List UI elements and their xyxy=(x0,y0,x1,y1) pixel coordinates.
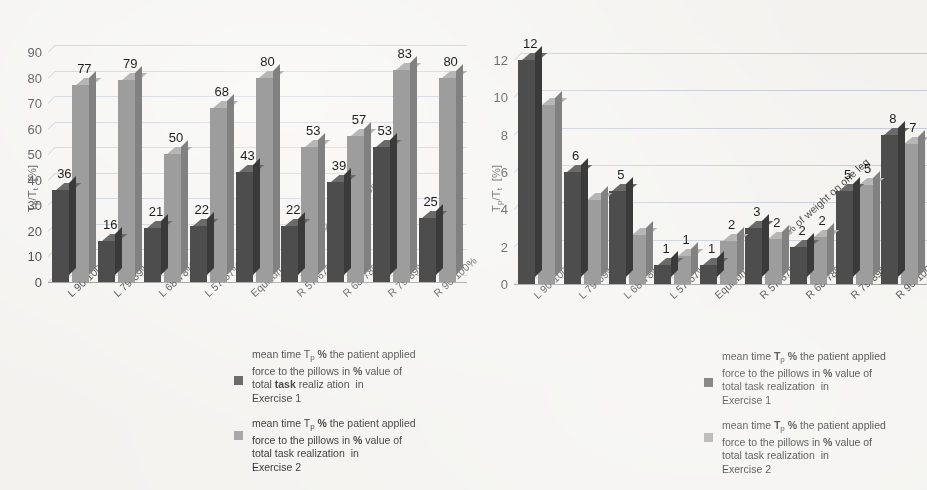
bar-value-label: 22 xyxy=(194,202,208,217)
y-tick-label: 6 xyxy=(478,165,508,180)
bar-value-label: 8 xyxy=(889,111,896,126)
chart-left-legend: mean time Tp % the patient applied force… xyxy=(232,348,452,486)
gridline xyxy=(521,90,927,91)
bar-side-face xyxy=(135,66,142,275)
legend-line: Exercise 1 xyxy=(252,392,452,406)
bar-value-label: 80 xyxy=(443,54,457,69)
y-tick-label: 10 xyxy=(478,90,508,105)
legend-line: mean time Tp % the patient applied xyxy=(252,417,452,434)
bar-value-label: 53 xyxy=(306,123,320,138)
bar-series-1 xyxy=(327,182,344,282)
legend-line: force to the pillows in % value of xyxy=(722,436,922,450)
legend-line: Exercise 2 xyxy=(722,463,922,477)
bar-top-face xyxy=(396,63,421,70)
legend-line: total task realization in xyxy=(722,380,922,394)
bar-side-face xyxy=(115,227,122,275)
bar-value-label: 36 xyxy=(57,166,71,181)
y-tick-label: 80 xyxy=(12,70,42,85)
bar-value-label: 16 xyxy=(103,217,117,232)
bar-side-face xyxy=(364,122,371,275)
scanned-figure-page: Tp/Tt [%] 0102030405060708090 3677167921… xyxy=(0,0,927,490)
chart-left-plot-area: Tp/Tt [%] 0102030405060708090 3677167921… xyxy=(0,0,462,300)
bar-front-face xyxy=(52,190,69,282)
legend-line: total task realization in xyxy=(252,447,452,461)
bar-side-face xyxy=(873,171,880,277)
bar-series-1 xyxy=(236,172,253,282)
bar-value-label: 2 xyxy=(799,223,806,238)
bar-front-face xyxy=(373,147,390,282)
y-tick-label: 90 xyxy=(12,45,42,60)
bar-side-face xyxy=(207,212,214,275)
bar-value-label: 68 xyxy=(214,84,228,99)
y-tick-label: 20 xyxy=(12,223,42,238)
chart-right: Tp/Tt [%] 024681012 1265111232225587 L 9… xyxy=(462,0,927,490)
bar-series-1 xyxy=(609,191,626,284)
bar-side-face xyxy=(807,233,814,277)
bar-side-face xyxy=(853,177,860,277)
bar-side-face xyxy=(298,212,305,275)
bar-top-face xyxy=(612,184,637,191)
bar-value-label: 22 xyxy=(286,202,300,217)
y-tick-label: 0 xyxy=(12,275,42,290)
bar-series-1 xyxy=(419,218,436,282)
bar-value-label: 57 xyxy=(352,112,366,127)
bar-side-face xyxy=(898,121,905,277)
depth-connector-line xyxy=(48,45,56,53)
bar-series-1 xyxy=(790,247,807,284)
bar-side-face xyxy=(601,186,608,277)
bar-front-face xyxy=(518,60,535,284)
bar-side-face xyxy=(181,140,188,275)
bar-side-face xyxy=(555,91,562,277)
bar-series-1 xyxy=(281,226,298,282)
y-tick-label: 70 xyxy=(12,96,42,111)
legend-swatch-series-1-icon xyxy=(234,376,243,385)
bar-side-face xyxy=(161,214,168,275)
bar-front-face xyxy=(564,172,581,284)
bar-side-face xyxy=(646,221,653,277)
chart-right-legend: mean time Tp % the patient applied force… xyxy=(702,350,922,488)
bar-front-face xyxy=(745,228,762,284)
bar-front-face xyxy=(654,265,671,284)
bar-side-face xyxy=(273,64,280,275)
bar-side-face xyxy=(318,133,325,275)
legend-swatch-series-2-icon xyxy=(704,433,713,442)
legend-line: mean time Tp % the patient applied xyxy=(722,419,922,436)
bar-top-face xyxy=(259,71,284,78)
bar-value-label: 3 xyxy=(753,204,760,219)
chart-right-plot-area: Tp/Tt [%] 024681012 1265111232225587 L 9… xyxy=(462,0,927,300)
bar-side-face xyxy=(253,158,260,275)
bar-front-face xyxy=(327,182,344,282)
depth-connector-line xyxy=(48,173,56,181)
bar-side-face xyxy=(535,46,542,277)
bar-value-label: 21 xyxy=(149,204,163,219)
bar-value-label: 43 xyxy=(240,148,254,163)
bar-top-face xyxy=(884,128,909,135)
bar-series-1 xyxy=(144,228,161,282)
depth-connector-line xyxy=(48,71,56,79)
bar-top-face xyxy=(213,101,238,108)
legend-swatch-series-2-icon xyxy=(234,431,243,440)
bar-top-face xyxy=(567,165,592,172)
bar-front-face xyxy=(419,218,436,282)
bar-series-1 xyxy=(881,135,898,284)
y-tick-label: 8 xyxy=(478,127,508,142)
bar-value-label: 53 xyxy=(378,123,392,138)
bar-top-face xyxy=(632,228,657,235)
y-tick-label: 60 xyxy=(12,121,42,136)
bar-side-face xyxy=(762,214,769,277)
bar-value-label: 12 xyxy=(523,36,537,51)
bar-front-face xyxy=(144,228,161,282)
bar-series-1 xyxy=(700,265,717,284)
bar-side-face xyxy=(227,94,234,275)
bar-series-1 xyxy=(373,147,390,282)
bar-series-1 xyxy=(98,241,115,282)
bar-series-1 xyxy=(518,60,535,284)
legend-line: mean time Tp % the patient applied xyxy=(722,350,922,367)
legend-line: mean time Tp % the patient applied xyxy=(252,348,452,365)
bar-front-face xyxy=(281,226,298,282)
bar-side-face xyxy=(456,64,463,275)
bar-side-face xyxy=(69,176,76,275)
chart-left: Tp/Tt [%] 0102030405060708090 3677167921… xyxy=(0,0,462,490)
bar-front-face xyxy=(190,226,207,282)
bar-value-label: 25 xyxy=(423,194,437,209)
